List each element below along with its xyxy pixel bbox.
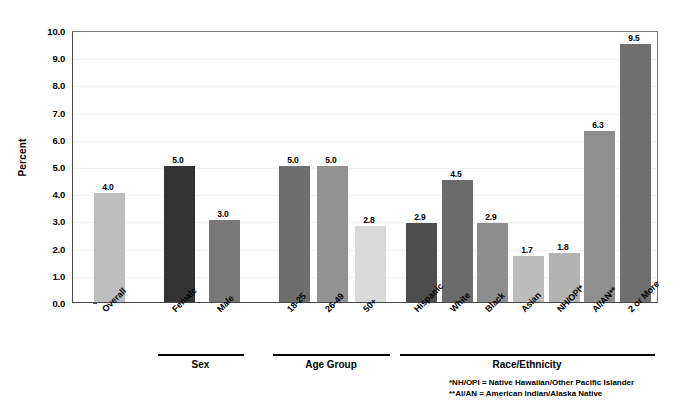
bar-value-label: 2.9 [485,212,497,222]
gridline [73,59,657,60]
plot-area [72,31,658,303]
group-label: Sex [192,359,210,370]
gridline [73,141,657,142]
y-tick-label: 0.0 [31,298,65,309]
bar[interactable] [317,166,348,302]
bar-value-label: 2.8 [363,215,375,225]
bar[interactable] [164,166,195,302]
y-tick-label: 3.0 [31,216,65,227]
y-axis-tick-labels: 10.09.08.07.06.05.04.03.02.01.00.0 [25,0,65,410]
bar[interactable] [477,223,508,302]
bar-value-label: 5.0 [325,155,337,165]
group-bracket-line [158,354,244,356]
bar[interactable] [355,226,386,302]
bar-value-label: 9.5 [628,33,640,43]
y-tick-label: 5.0 [31,162,65,173]
group-label: Race/Ethnicity [493,359,562,370]
bar-value-label: 5.0 [172,155,184,165]
footnote-nhopi: *NH/OPI = Native Hawaiian/Other Pacific … [449,377,634,388]
y-tick-label: 6.0 [31,134,65,145]
gridline [73,86,657,87]
bar-value-label: 1.8 [557,242,569,252]
gridline [73,168,657,169]
y-tick-mark [93,303,97,304]
bar[interactable] [442,180,473,302]
bar-value-label: 4.0 [102,182,114,192]
bar-value-label: 1.7 [521,245,533,255]
y-tick-label: 8.0 [31,80,65,91]
y-tick-label: 7.0 [31,107,65,118]
bar-value-label: 6.3 [592,120,604,130]
y-tick-label: 9.0 [31,53,65,64]
bar[interactable] [279,166,310,302]
bar[interactable] [620,44,651,302]
bar-value-label: 3.0 [217,209,229,219]
y-tick-label: 2.0 [31,243,65,254]
bar-value-label: 2.9 [414,212,426,222]
footnotes: *NH/OPI = Native Hawaiian/Other Pacific … [449,377,634,399]
group-bracket-line [400,354,655,356]
y-tick-label: 1.0 [31,270,65,281]
gridline [73,114,657,115]
group-bracket-line [273,354,390,356]
bar[interactable] [209,220,240,302]
footnote-aian: **AI/AN = American Indian/Alaska Native [449,388,634,399]
bar[interactable] [584,131,615,302]
y-tick-label: 4.0 [31,189,65,200]
bar-value-label: 4.5 [450,169,462,179]
gridline [73,195,657,196]
group-label: Age Group [305,359,357,370]
y-tick-label: 10.0 [31,26,65,37]
bar-value-label: 5.0 [287,155,299,165]
bar-chart: Percent 10.09.08.07.06.05.04.03.02.01.00… [0,0,686,410]
